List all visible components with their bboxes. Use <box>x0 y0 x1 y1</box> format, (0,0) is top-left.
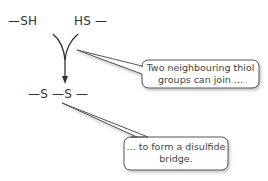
left-bond-curve <box>53 34 65 60</box>
callout-bottom-text: ... to form a disulfide bridge. <box>124 141 228 165</box>
thiol-group-right: HS — <box>74 14 107 28</box>
disulfide-product: —S —S — <box>28 87 88 101</box>
callout-top-text: Two neighbouring thiol groups can join .… <box>142 62 259 86</box>
thiol-group-left: —SH <box>8 14 37 28</box>
arrow-head-icon <box>62 76 68 84</box>
disulfide-diagram: —SH HS — —S —S — Two neighbouring thiol … <box>0 0 268 181</box>
right-bond-curve <box>65 34 78 60</box>
